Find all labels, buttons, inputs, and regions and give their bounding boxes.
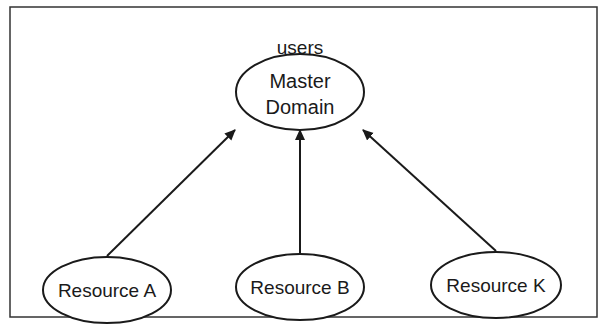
trust-diagram: users Master Domain Resource A Resource …: [0, 0, 615, 324]
arrow-a-to-master: [107, 130, 235, 256]
resource-b-node: Resource B: [236, 254, 364, 320]
resource-a-node: Resource A: [43, 257, 171, 323]
master-domain-label-line2: Domain: [266, 96, 335, 118]
arrow-k-to-master: [363, 130, 496, 251]
resource-k-node: Resource K: [431, 252, 561, 318]
master-domain-label-line1: Master: [269, 70, 330, 92]
resource-k-label: Resource K: [446, 275, 546, 296]
resource-a-label: Resource A: [58, 280, 157, 301]
resource-b-label: Resource B: [250, 277, 349, 298]
master-domain-node: Master Domain: [236, 54, 364, 130]
